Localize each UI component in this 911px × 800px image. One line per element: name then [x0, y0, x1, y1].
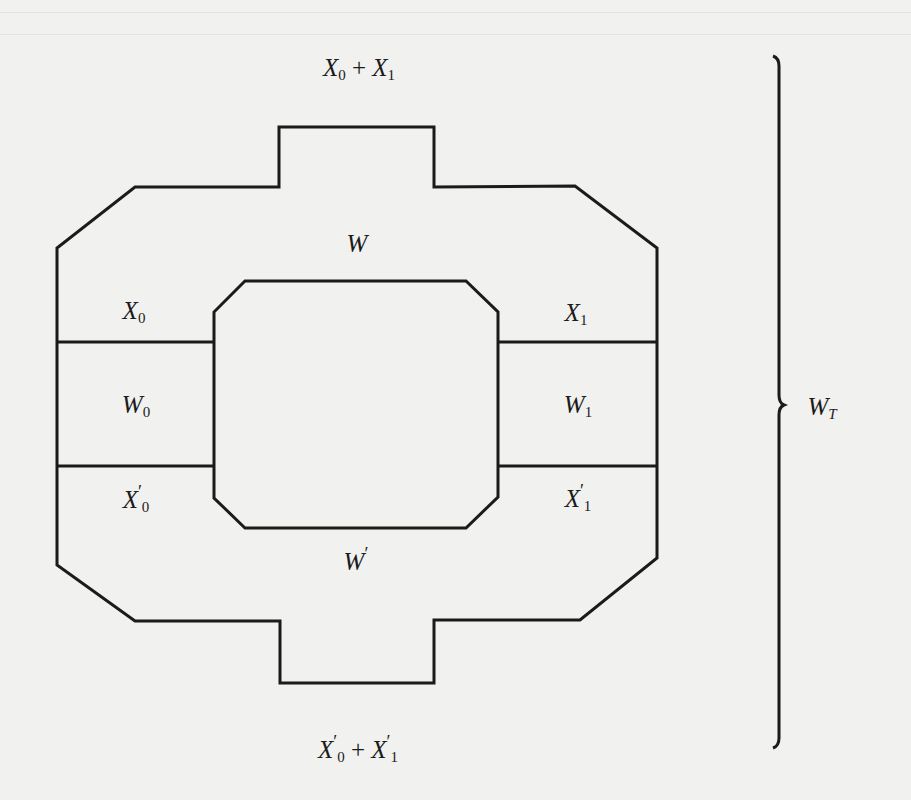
curly-brace [773, 56, 784, 748]
label-X0-prime: X′0 [123, 482, 150, 515]
label-W: W [347, 230, 368, 258]
label-top-sum: X0 + X1 [323, 54, 395, 84]
label-X1: X1 [565, 299, 588, 329]
label-W-prime: W′ [344, 544, 369, 575]
label-bottom-sum: X′0 + X′1 [318, 732, 398, 765]
label-W1: W1 [564, 391, 592, 421]
label-W0: W0 [122, 391, 150, 421]
inner-region-boundary [214, 281, 498, 528]
label-WT: WT [807, 393, 836, 423]
label-X1-prime: X′1 [565, 481, 592, 514]
label-X0: X0 [123, 297, 146, 327]
